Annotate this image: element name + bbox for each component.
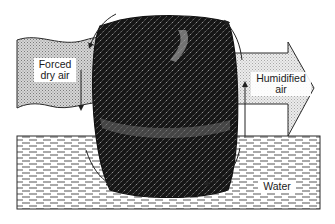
outlet-label: Humidified air: [251, 72, 311, 96]
humidifier-diagram: Forced dry air Humidified air Water: [0, 0, 335, 224]
outlet-label-line2: air: [253, 84, 309, 95]
inlet-label: Forced dry air: [34, 58, 76, 82]
inlet-label-line2: dry air: [36, 70, 74, 81]
mesh-drum: [93, 16, 238, 198]
water-label-text: Water: [263, 180, 291, 192]
water-label: Water: [258, 180, 296, 193]
